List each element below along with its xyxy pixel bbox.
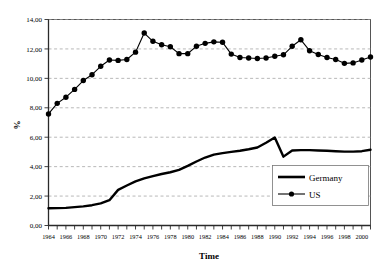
y-tick-label: 8,00 <box>30 104 43 112</box>
x-tick-label: 1964 <box>42 233 55 240</box>
x-tick-label: 1988 <box>251 233 264 240</box>
data-point-us <box>289 44 294 49</box>
data-point-us <box>115 58 120 63</box>
legend-swatch-us-marker <box>289 191 294 196</box>
y-axis-title: % <box>12 121 22 130</box>
data-point-us <box>176 51 181 56</box>
legend-box <box>273 166 369 206</box>
data-point-us <box>220 40 225 45</box>
data-point-us <box>298 37 303 42</box>
y-tick-label: 12,00 <box>26 46 42 54</box>
data-point-us <box>255 56 260 61</box>
x-tick-label: 1966 <box>60 233 73 240</box>
x-tick-label: 1974 <box>129 233 142 240</box>
data-point-us <box>98 64 103 69</box>
x-tick-label: 1984 <box>216 233 229 240</box>
data-point-us <box>307 48 312 53</box>
x-tick-label: 1982 <box>199 233 212 240</box>
y-tick-label: 6,00 <box>30 134 43 142</box>
data-point-us <box>237 55 242 60</box>
x-tick-label: 1976 <box>147 233 160 240</box>
y-tick-label: 0,00 <box>30 222 43 230</box>
y-tick-label: 14,00 <box>26 16 42 24</box>
series-line-us <box>49 33 371 114</box>
data-point-us <box>142 30 147 35</box>
data-point-us <box>263 55 268 60</box>
data-point-us <box>124 57 129 62</box>
line-chart: 0,00 2,00 4,00 6,00 8,00 10,00 12,00 14,… <box>0 0 391 267</box>
data-point-us <box>194 44 199 49</box>
data-point-us <box>350 60 355 65</box>
data-point-us <box>150 39 155 44</box>
data-point-us <box>211 39 216 44</box>
data-point-us <box>81 78 86 83</box>
data-point-us <box>368 54 373 59</box>
y-axis-tick-labels: 0,00 2,00 4,00 6,00 8,00 10,00 12,00 14,… <box>26 16 42 230</box>
y-tick-label: 2,00 <box>30 193 43 201</box>
x-tick-label: 1996 <box>321 233 334 240</box>
data-point-us <box>333 57 338 62</box>
data-point-us <box>46 111 51 116</box>
data-point-us <box>229 51 234 56</box>
x-axis-title: Time <box>199 251 219 261</box>
x-tick-label: 1968 <box>77 233 90 240</box>
data-point-us <box>168 44 173 49</box>
series-markers-us <box>46 30 373 116</box>
x-tick-label: 1992 <box>286 233 299 240</box>
legend-label-us: US <box>309 190 321 200</box>
x-tick-label: 1998 <box>338 233 351 240</box>
data-point-us <box>133 49 138 54</box>
data-point-us <box>202 41 207 46</box>
x-tick-label: 1990 <box>268 233 281 240</box>
data-point-us <box>107 57 112 62</box>
x-tick-label: 2000 <box>356 233 369 240</box>
data-point-us <box>185 51 190 56</box>
data-point-us <box>55 101 60 106</box>
data-point-us <box>342 61 347 66</box>
data-point-us <box>63 94 68 99</box>
data-point-us <box>72 87 77 92</box>
data-point-us <box>89 72 94 77</box>
chart-container: 0,00 2,00 4,00 6,00 8,00 10,00 12,00 14,… <box>0 0 391 267</box>
data-point-us <box>359 57 364 62</box>
chart-legend: Germany US <box>273 166 369 206</box>
x-tick-label: 1972 <box>112 233 125 240</box>
x-tick-label: 1970 <box>94 233 107 240</box>
x-axis-tick-labels: 1964196619681970197219741976197819801982… <box>42 233 368 240</box>
x-tick-label: 1994 <box>303 233 316 240</box>
data-point-us <box>281 52 286 57</box>
x-tick-label: 1978 <box>164 233 177 240</box>
x-tick-label: 1986 <box>234 233 247 240</box>
y-tick-label: 10,00 <box>26 75 42 83</box>
data-point-us <box>272 54 277 59</box>
x-tick-label: 1980 <box>181 233 194 240</box>
legend-label-germany: Germany <box>309 173 343 183</box>
data-point-us <box>324 55 329 60</box>
data-point-us <box>246 55 251 60</box>
data-point-us <box>316 52 321 57</box>
y-tick-label: 4,00 <box>30 163 43 171</box>
data-point-us <box>159 42 164 47</box>
